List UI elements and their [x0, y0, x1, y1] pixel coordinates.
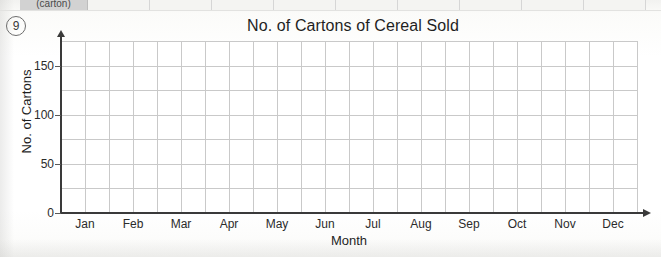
x-tick-label: Apr: [205, 217, 253, 231]
cutoff-table-cell: [336, 0, 398, 10]
x-tick-label: Mar: [157, 217, 205, 231]
chart-gridline-horizontal: [61, 139, 637, 140]
x-tick-label: Dec: [589, 217, 637, 231]
chart-gridline-vertical: [637, 41, 638, 213]
x-tick-label: May: [253, 217, 301, 231]
cutoff-table-cell: [398, 0, 460, 10]
chart-gridline-horizontal: [61, 90, 637, 91]
y-tick-label-text: 0: [20, 207, 54, 219]
chart-gridline-horizontal: [61, 164, 637, 165]
y-axis-line: [60, 34, 62, 214]
chart-gridline-horizontal: [61, 188, 637, 189]
x-tick-label: Oct: [493, 217, 541, 231]
y-axis-title: No. of Cartons: [20, 57, 33, 167]
y-tick-mark: [55, 213, 61, 214]
cutoff-table-rule: [0, 10, 661, 11]
scan-edge-shadow-left: [0, 0, 14, 257]
cutoff-table-cell: [274, 0, 336, 10]
cutoff-table-cell: [460, 0, 522, 10]
chart-gridline-horizontal: [61, 115, 637, 116]
y-axis-arrow-icon: [57, 30, 65, 37]
cutoff-table-cell: [584, 0, 646, 10]
x-tick-label: Nov: [541, 217, 589, 231]
x-axis-line: [61, 212, 645, 214]
cutoff-table-cell: (carton): [20, 0, 88, 10]
cutoff-table-cell-label: (carton): [20, 0, 87, 9]
cutoff-table-cell: [150, 0, 212, 10]
cutoff-table-cell: [522, 0, 584, 10]
chart-plot-area: [61, 41, 637, 213]
x-axis-arrow-icon: [643, 209, 651, 217]
chart-title: No. of Cartons of Cereal Sold: [61, 17, 645, 35]
x-tick-label: Jan: [61, 217, 109, 231]
x-axis-title: Month: [61, 234, 637, 248]
y-tick-mark: [55, 66, 61, 67]
x-tick-label: Aug: [397, 217, 445, 231]
x-tick-label: Feb: [109, 217, 157, 231]
chart-gridline-horizontal: [61, 41, 637, 42]
worksheet-page: (carton) 9 No. of Cartons of Cereal Sold…: [0, 0, 661, 257]
y-tick-mark: [55, 115, 61, 116]
x-tick-label: Sep: [445, 217, 493, 231]
y-tick-mark: [55, 164, 61, 165]
cutoff-table-cell: [212, 0, 274, 10]
cutoff-table-cell: [88, 0, 150, 10]
chart-gridline-horizontal: [61, 66, 637, 67]
x-tick-label: Jun: [301, 217, 349, 231]
y-tick-label: 0: [14, 207, 54, 219]
question-number: 9: [6, 16, 26, 36]
x-tick-label: Jul: [349, 217, 397, 231]
